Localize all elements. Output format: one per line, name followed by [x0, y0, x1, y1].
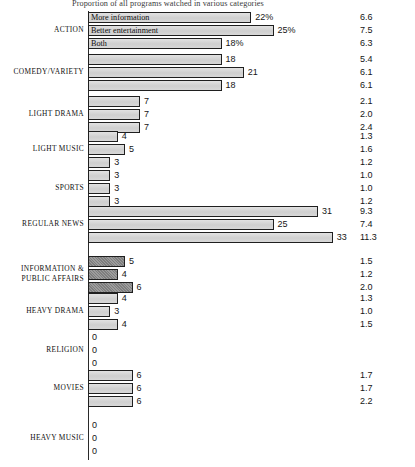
category-label-light-drama: LIGHT DRAMA [0, 109, 84, 118]
right-value: 5.4 [360, 54, 373, 65]
bar-value-label: 4 [122, 131, 127, 142]
bar-value-label: 25 [278, 219, 288, 230]
bar-value-label: 33 [337, 232, 347, 243]
right-value: 1.2 [360, 269, 373, 280]
bar-value-label: 7 [144, 109, 149, 120]
bar-row: 0 [88, 420, 415, 431]
bar-light-music-more-information[interactable] [88, 131, 118, 142]
bar-value-label: 5 [129, 256, 134, 267]
bar-regular-news-more-information[interactable] [88, 206, 318, 217]
right-value: 1.0 [360, 170, 373, 181]
bar-value-label: 3 [114, 170, 119, 181]
right-value: 7.4 [360, 219, 373, 230]
bar-heavy-drama-better-entertainment[interactable] [88, 306, 110, 317]
right-value: 6.1 [360, 67, 373, 78]
series-legend-more-information: More information [91, 12, 149, 23]
bar-light-drama-more-information[interactable] [88, 96, 140, 107]
bar-value-label: 18 [226, 80, 236, 91]
bar-value-label: 0 [92, 420, 97, 431]
bar-row: 0 [88, 345, 415, 356]
bar-movies-more-information[interactable] [88, 370, 133, 381]
bar-value-label: 5 [129, 144, 134, 155]
bar-row: 0 [88, 358, 415, 369]
bar-value-label: 0 [92, 433, 97, 444]
bar-value-label: 0 [92, 358, 97, 369]
bar-row: 0 [88, 446, 415, 457]
right-value: 6.1 [360, 80, 373, 91]
bar-regular-news-better-entertainment[interactable] [88, 219, 274, 230]
bar-value-label: 3 [114, 306, 119, 317]
right-value: 6.6 [360, 12, 373, 23]
bar-information-and-public-affairs-more-information[interactable] [88, 256, 125, 267]
bar-value-label: 4 [122, 293, 127, 304]
category-label-religion: RELIGION [0, 345, 84, 354]
category-label-regular-news: REGULAR NEWS [0, 219, 84, 228]
right-value: 1.5 [360, 256, 373, 267]
bar-value-label: 6 [137, 383, 142, 394]
bar-movies-both[interactable] [88, 396, 133, 407]
right-value: 1.7 [360, 383, 373, 394]
bar-action-both[interactable] [88, 38, 222, 49]
bar-light-music-better-entertainment[interactable] [88, 144, 125, 155]
category-label-heavy-music: HEAVY MUSIC [0, 433, 84, 442]
right-value: 1.0 [360, 306, 373, 317]
series-legend-both: Both [91, 38, 107, 49]
category-label-movies: MOVIES [0, 383, 84, 392]
right-value: 1.6 [360, 144, 373, 155]
right-value: 1.3 [360, 131, 373, 142]
bar-value-label: 22% [255, 12, 273, 23]
bar-value-label: 7 [144, 96, 149, 107]
bar-value-label: 3 [114, 183, 119, 194]
bar-value-label: 0 [92, 332, 97, 343]
bar-value-label: 3 [114, 196, 119, 207]
right-value: 1.7 [360, 370, 373, 381]
bar-sports-better-entertainment[interactable] [88, 183, 110, 194]
right-value: 9.3 [360, 206, 373, 217]
bar-value-label: 4 [122, 319, 127, 330]
bar-value-label: 6 [137, 396, 142, 407]
category-label-heavy-drama: HEAVY DRAMA [0, 306, 84, 315]
bar-value-label: 21 [248, 67, 258, 78]
right-value: 2.2 [360, 396, 373, 407]
bar-information-and-public-affairs-both[interactable] [88, 282, 133, 293]
right-value: 2.0 [360, 282, 373, 293]
bar-value-label: 4 [122, 269, 127, 280]
bar-value-label: 25% [278, 25, 296, 36]
right-value: 11.3 [360, 232, 377, 243]
bar-regular-news-both[interactable] [88, 232, 333, 243]
bar-heavy-drama-more-information[interactable] [88, 293, 118, 304]
right-value: 1.5 [360, 319, 373, 330]
bar-comedy-variety-more-information[interactable] [88, 54, 222, 65]
bar-movies-better-entertainment[interactable] [88, 383, 133, 394]
bar-value-label: 0 [92, 446, 97, 457]
bar-value-label: 6 [137, 370, 142, 381]
category-label-comedy-variety: COMEDY/VARIETY [0, 67, 84, 76]
bar-comedy-variety-better-entertainment[interactable] [88, 67, 244, 78]
bar-value-label: 0 [92, 345, 97, 356]
bar-sports-more-information[interactable] [88, 170, 110, 181]
chart-title: Proportion of all programs watched in va… [72, 0, 332, 9]
bar-information-and-public-affairs-better-entertainment[interactable] [88, 269, 118, 280]
bar-comedy-variety-both[interactable] [88, 80, 222, 91]
bar-heavy-drama-both[interactable] [88, 319, 118, 330]
bar-light-music-both[interactable] [88, 157, 110, 168]
right-value: 6.3 [360, 38, 373, 49]
right-value: 7.5 [360, 25, 373, 36]
bar-row: 0 [88, 332, 415, 343]
category-label-sports: SPORTS [0, 183, 84, 192]
bar-value-label: 18% [226, 38, 244, 49]
bar-row: 0 [88, 433, 415, 444]
category-label-light-music: LIGHT MUSIC [0, 144, 84, 153]
chart-root: Proportion of all programs watched in va… [0, 0, 415, 467]
right-value: 1.3 [360, 293, 373, 304]
category-label-action: ACTION [0, 25, 84, 34]
bar-light-drama-better-entertainment[interactable] [88, 109, 140, 120]
category-label-information-and-public-affairs: INFORMATION &PUBLIC AFFAIRS [0, 264, 84, 283]
bar-value-label: 3 [114, 157, 119, 168]
bar-value-label: 31 [322, 206, 332, 217]
right-value: 2.0 [360, 109, 373, 120]
right-value: 1.2 [360, 157, 373, 168]
series-legend-better-entertainment: Better entertainment [91, 25, 158, 36]
right-value: 2.1 [360, 96, 373, 107]
right-value: 1.0 [360, 183, 373, 194]
